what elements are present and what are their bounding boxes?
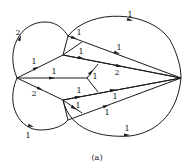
edge-weight-label: 2	[31, 89, 36, 98]
edge-weight-label: 1	[76, 28, 81, 37]
graph-edge	[13, 78, 68, 130]
graph-edge	[68, 16, 181, 78]
edge-weight-label: 1	[116, 43, 121, 52]
arrowhead-icon	[37, 86, 44, 92]
edge-weight-label: 1	[112, 92, 117, 101]
figure-caption: (a)	[91, 153, 102, 162]
graph-edge	[68, 36, 181, 78]
edge-weight-label: 2	[15, 28, 20, 37]
edge-weight-label: 1	[78, 47, 83, 56]
edge-weight-label: 1	[127, 10, 132, 19]
edge-weight-label: 1	[92, 72, 97, 81]
graph-edge	[68, 78, 181, 120]
edge-weight-label: 1	[25, 131, 30, 140]
graph-figure: 2111112112111111 (a)	[0, 0, 195, 167]
edge-weight-label: 1	[124, 124, 129, 133]
arrows-layer	[17, 18, 133, 137]
arrowhead-icon	[49, 76, 55, 79]
edge-weight-label: 1	[76, 86, 81, 95]
graph-edge	[13, 22, 68, 78]
edge-weight-label: 1	[104, 108, 109, 117]
edge-weight-label: 1	[51, 67, 56, 76]
arrowhead-icon	[78, 56, 85, 60]
edge-weight-label: 1	[31, 57, 36, 66]
edge-weight-label: 1	[75, 101, 80, 110]
graph-canvas: 2111112112111111 (a)	[0, 0, 195, 167]
edge-weight-label: 2	[114, 68, 119, 77]
